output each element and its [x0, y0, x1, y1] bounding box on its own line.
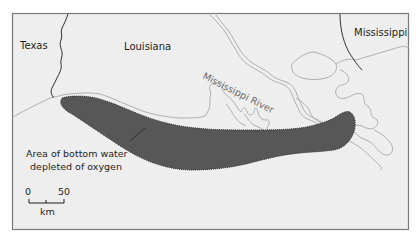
legend-line-1: Area of bottom water — [26, 147, 126, 160]
label-mississippi: Mississippi — [354, 27, 407, 38]
scale-unit: km — [40, 206, 55, 217]
legend-hypoxic-zone: Area of bottom water depleted of oxygen — [26, 147, 126, 173]
legend-line-2: depleted of oxygen — [26, 160, 126, 173]
scale-min: 0 — [25, 186, 31, 197]
label-texas: Texas — [20, 40, 48, 51]
scale-max: 50 — [58, 186, 70, 197]
label-louisiana: Louisiana — [124, 41, 171, 52]
